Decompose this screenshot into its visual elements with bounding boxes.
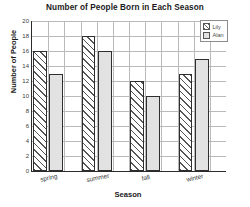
y-tick-label: 12 — [22, 78, 29, 84]
legend-item-alan: Alan — [203, 32, 224, 39]
x-tick-label: fall — [141, 173, 150, 182]
bar-summer-alan — [98, 51, 112, 171]
y-tick-label: 18 — [22, 33, 29, 39]
bar-spring-alan — [49, 74, 63, 172]
legend-label: Alan — [213, 32, 224, 38]
bar-spring-lily — [33, 51, 47, 171]
chart-legend: LilyAlan — [200, 20, 228, 42]
x-axis-title: Season — [30, 190, 226, 199]
y-tick-label: 8 — [26, 108, 29, 114]
bar-fall-lily — [130, 81, 144, 171]
chart-title: Number of People Born in Each Season — [0, 3, 250, 12]
gridline-vertical — [64, 21, 65, 171]
y-axis-title: Number of People — [9, 7, 18, 117]
gridline-vertical — [210, 21, 211, 171]
bar-winter-lily — [179, 74, 193, 172]
x-tick-label: summer — [85, 172, 109, 184]
legend-swatch-icon — [203, 23, 210, 30]
y-tick-label: 14 — [22, 63, 29, 69]
bar-fall-alan — [146, 96, 160, 171]
y-tick-label: 2 — [26, 153, 29, 159]
y-tick-label: 0 — [26, 168, 29, 174]
x-tick-label: winter — [185, 172, 203, 182]
gridline-vertical — [161, 21, 162, 171]
x-tick-label: spring — [40, 172, 58, 182]
y-tick-label: 20 — [22, 18, 29, 24]
y-tick-label: 16 — [22, 48, 29, 54]
legend-item-lily: Lily — [203, 23, 224, 30]
bar-chart: Number of People Born in Each Season Num… — [0, 0, 250, 207]
legend-swatch-icon — [203, 32, 210, 39]
legend-label: Lily — [213, 24, 221, 30]
bar-winter-alan — [195, 59, 209, 172]
y-tick-label: 6 — [26, 123, 29, 129]
y-tick-label: 4 — [26, 138, 29, 144]
y-tick-label: 10 — [22, 93, 29, 99]
plot-area: 02468101214161820 springsummerfallwinter — [31, 21, 226, 172]
bar-summer-lily — [82, 36, 96, 171]
gridline-vertical — [113, 21, 114, 171]
